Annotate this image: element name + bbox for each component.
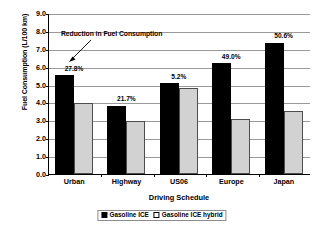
x-axis-tick-label: Highway [97,178,157,185]
bar-value-label: 5.2% [155,74,203,81]
bar-gasoline-ice-hybrid [126,121,145,174]
bar-group: 21.7% [101,14,153,174]
x-axis-tickmark [259,174,260,177]
bar-gasoline-ice [265,43,284,174]
y-axis-tick-label: 5.0 [20,82,46,89]
bar-gasoline-ice [212,63,231,174]
y-axis-tick-labels: 0.01.02.03.04.05.06.07.08.09.0 [20,14,46,175]
x-axis-title: Driving Schedule [48,193,310,202]
legend-label-gasoline-ice: Gasoline ICE [109,212,148,218]
y-axis-tick-label: 0.0 [20,171,46,178]
bar-group: 50.6% [259,14,311,174]
bar-gasoline-ice-hybrid [284,111,303,174]
x-axis-tickmark [206,174,207,177]
fuel-consumption-bar-chart: Fuel Consumption (L/100 km) 0.01.02.03.0… [0,0,324,233]
x-axis-tick-label: Urban [44,178,104,185]
bar-value-label: 49.0% [207,54,255,61]
y-axis-tick-label: 9.0 [20,10,46,17]
bar-value-label: 50.6% [260,33,308,40]
y-axis-tick-label: 1.0 [20,154,46,161]
y-axis-tickmark [46,175,49,176]
bar-value-label: 21.7% [102,96,150,103]
legend-entry-gasoline-ice-hybrid: Gasoline ICE hybrid [154,212,223,218]
y-axis-tick-label: 6.0 [20,64,46,71]
bar-gasoline-ice [107,106,126,174]
x-axis-tickmark [101,174,102,177]
bar-gasoline-ice [160,83,179,174]
legend-label-gasoline-ice-hybrid: Gasoline ICE hybrid [162,212,223,218]
bar-gasoline-ice-hybrid [74,103,93,174]
bar-value-label: 27.8% [50,66,98,73]
x-axis-tick-label: Europe [201,178,261,185]
bar-gasoline-ice-hybrid [179,88,198,174]
bar-gasoline-ice [55,75,74,174]
y-axis-tick-label: 8.0 [20,28,46,35]
bar-gasoline-ice-hybrid [231,119,250,174]
y-axis-tick-label: 4.0 [20,100,46,107]
bar-group: 49.0% [206,14,258,174]
chart-legend: Gasoline ICE Gasoline ICE hybrid [97,210,226,221]
annotation-label: Reduction in Fuel Consumption [61,30,162,37]
x-axis-tick-label: US06 [149,178,209,185]
y-axis-tick-label: 3.0 [20,118,46,125]
y-axis-tick-label: 2.0 [20,136,46,143]
x-axis-tick-label: Japan [254,178,314,185]
annotation-arrow-icon [67,38,93,64]
legend-swatch-icon-gasoline-ice-hybrid [154,212,160,218]
y-axis-tick-label: 7.0 [20,46,46,53]
x-axis-tickmark [154,174,155,177]
plot-area: 27.8%21.7%5.2%49.0%50.6% Reduction in Fu… [48,14,310,175]
bar-group: 5.2% [154,14,206,174]
legend-swatch-icon-gasoline-ice [101,212,107,218]
legend-entry-gasoline-ice: Gasoline ICE [101,212,148,218]
x-axis-tick-labels: UrbanHighwayUS06EuropeJapan [48,178,310,190]
